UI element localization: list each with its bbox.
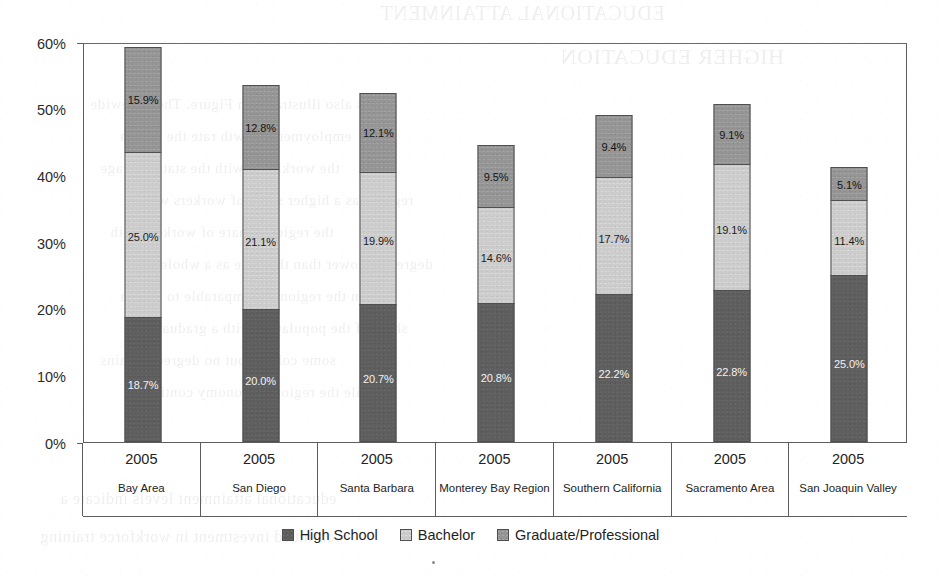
legend-swatch-bachelor-icon: [400, 529, 412, 541]
x-axis-cell-bay-area: 2005 Bay Area: [83, 443, 201, 516]
bar-segment-graduate-professional[interactable]: 12.8%: [242, 85, 279, 170]
bar-segment-high-school[interactable]: 22.8%: [713, 290, 750, 442]
x-axis-region-label: Santa Barbara: [338, 481, 416, 495]
x-axis-year-label: 2005: [361, 452, 393, 467]
bar-segment-value-label: 9.5%: [484, 172, 509, 183]
bar-stack[interactable]: 12.1% 19.9% 20.7%: [360, 94, 397, 442]
x-axis-cell-monterey-bay-region: 2005 Monterey Bay Region: [436, 443, 554, 516]
bar-segment-value-label: 22.2%: [599, 369, 630, 380]
chart-legend: High School Bachelor Graduate/Profession…: [0, 528, 941, 543]
bar-segment-high-school[interactable]: 20.0%: [242, 309, 279, 442]
bar-group-sacramento-area[interactable]: 9.1% 19.1% 22.8%: [673, 42, 791, 442]
bar-segment-bachelor[interactable]: 19.9%: [360, 172, 397, 305]
bar-segment-graduate-professional[interactable]: 5.1%: [831, 167, 868, 201]
x-axis-cell-sacramento-area: 2005 Sacramento Area: [672, 443, 790, 516]
bar-group-bay-area[interactable]: 15.9% 25.0% 18.7%: [84, 42, 202, 442]
bar-segment-graduate-professional[interactable]: 9.4%: [595, 115, 632, 178]
bar-segment-high-school[interactable]: 18.7%: [125, 317, 162, 442]
bar-stack[interactable]: 12.8% 21.1% 20.0%: [242, 86, 279, 442]
bar-segment-value-label: 12.1%: [363, 128, 394, 139]
bar-segment-value-label: 11.4%: [834, 236, 864, 247]
bar-segment-high-school[interactable]: 25.0%: [831, 275, 868, 442]
bar-segment-value-label: 14.6%: [481, 253, 512, 264]
y-axis-tick-label: 60%: [37, 37, 66, 52]
x-axis-cell-san-joaquin-valley: 2005 San Joaquin Valley: [789, 443, 907, 516]
bar-segment-bachelor[interactable]: 19.1%: [713, 164, 750, 291]
bar-segment-value-label: 20.7%: [363, 374, 394, 385]
x-axis-year-label: 2005: [125, 452, 157, 467]
bar-segment-high-school[interactable]: 20.8%: [478, 303, 515, 442]
bar-segment-graduate-professional[interactable]: 9.5%: [478, 145, 515, 208]
x-axis-cell-san-diego: 2005 San Diego: [201, 443, 319, 516]
scan-artifact-speck: [432, 561, 435, 564]
x-axis-region-label: Monterey Bay Region: [437, 481, 552, 495]
bar-segment-high-school[interactable]: 20.7%: [360, 304, 397, 442]
x-axis-year-label: 2005: [478, 452, 510, 467]
bar-segment-value-label: 21.1%: [245, 237, 276, 248]
legend-item-bachelor[interactable]: Bachelor: [400, 528, 475, 543]
y-axis-tick-label: 0%: [45, 437, 66, 452]
bar-segment-value-label: 5.1%: [837, 180, 862, 191]
bar-segment-bachelor[interactable]: 17.7%: [595, 177, 632, 295]
bar-stack[interactable]: 15.9% 25.0% 18.7%: [125, 48, 162, 442]
y-axis-tick-label: 10%: [37, 370, 66, 385]
y-axis-tick-label: 40%: [37, 170, 66, 185]
bar-stack[interactable]: 5.1% 11.4% 25.0%: [831, 168, 868, 442]
x-axis-year-label: 2005: [596, 452, 628, 467]
x-axis-region-label: Bay Area: [116, 481, 167, 495]
stacked-bar-chart: 60% 50% 40% 30% 20% 10% 0% 15.9% 25.0% 1…: [0, 0, 941, 577]
bar-segment-bachelor[interactable]: 21.1%: [242, 169, 279, 310]
bar-segment-bachelor[interactable]: 14.6%: [478, 207, 515, 304]
bar-segment-value-label: 19.9%: [363, 236, 394, 247]
bar-segment-high-school[interactable]: 22.2%: [595, 294, 632, 442]
legend-swatch-high-school-icon: [282, 529, 294, 541]
bar-segment-graduate-professional[interactable]: 9.1%: [713, 104, 750, 165]
bar-segment-value-label: 25.0%: [128, 232, 159, 243]
bar-segment-value-label: 12.8%: [245, 123, 276, 134]
bar-group-southern-california[interactable]: 9.4% 17.7% 22.2%: [555, 42, 673, 442]
x-axis-year-label: 2005: [243, 452, 275, 467]
bar-segment-graduate-professional[interactable]: 12.1%: [360, 93, 397, 174]
bar-stack[interactable]: 9.4% 17.7% 22.2%: [595, 116, 632, 442]
bar-segment-value-label: 25.0%: [834, 359, 865, 370]
plot-area: 15.9% 25.0% 18.7% 12.8% 21.1%: [83, 43, 907, 443]
legend-item-graduate-professional[interactable]: Graduate/Professional: [497, 528, 659, 543]
bar-segment-value-label: 9.4%: [602, 142, 627, 153]
bar-segment-value-label: 20.0%: [245, 376, 276, 387]
x-axis-category-labels: 2005 Bay Area 2005 San Diego 2005 Santa …: [83, 443, 907, 517]
bar-stack[interactable]: 9.5% 14.6% 20.8%: [478, 146, 515, 442]
x-axis-region-label: San Joaquin Valley: [797, 481, 899, 495]
x-axis-cell-southern-california: 2005 Southern California: [554, 443, 672, 516]
x-axis-region-label: San Diego: [230, 481, 288, 495]
bar-segment-value-label: 20.8%: [481, 373, 512, 384]
bar-segment-bachelor[interactable]: 11.4%: [831, 200, 868, 276]
bar-group-san-diego[interactable]: 12.8% 21.1% 20.0%: [202, 42, 320, 442]
bar-segment-value-label: 22.8%: [716, 367, 747, 378]
bar-segment-bachelor[interactable]: 25.0%: [125, 152, 162, 319]
bar-segment-value-label: 17.7%: [599, 234, 630, 245]
bar-segment-value-label: 9.1%: [719, 130, 744, 141]
x-axis-cell-santa-barbara: 2005 Santa Barbara: [318, 443, 436, 516]
legend-swatch-graduate-icon: [497, 529, 509, 541]
x-axis-year-label: 2005: [832, 452, 864, 467]
bar-segment-value-label: 15.9%: [128, 95, 159, 106]
x-axis-region-label: Southern California: [561, 481, 663, 495]
bar-segment-graduate-professional[interactable]: 15.9%: [125, 47, 162, 153]
legend-item-high-school[interactable]: High School: [282, 528, 378, 543]
bar-segment-value-label: 19.1%: [716, 225, 747, 236]
legend-label: High School: [300, 528, 378, 543]
x-axis-region-label: Sacramento Area: [683, 481, 776, 495]
y-axis-tick-label: 50%: [37, 103, 66, 118]
y-axis: 60% 50% 40% 30% 20% 10% 0%: [0, 30, 80, 460]
y-axis-tick-label: 30%: [37, 237, 66, 252]
bar-group-santa-barbara[interactable]: 12.1% 19.9% 20.7%: [319, 42, 437, 442]
y-axis-tick-label: 20%: [37, 303, 66, 318]
bar-stack[interactable]: 9.1% 19.1% 22.8%: [713, 105, 750, 442]
legend-label: Bachelor: [418, 528, 475, 543]
bar-group-san-joaquin-valley[interactable]: 5.1% 11.4% 25.0%: [790, 42, 908, 442]
bar-group-monterey-bay-region[interactable]: 9.5% 14.6% 20.8%: [437, 42, 555, 442]
legend-label: Graduate/Professional: [515, 528, 659, 543]
x-axis-year-label: 2005: [714, 452, 746, 467]
bar-segment-value-label: 18.7%: [128, 380, 159, 391]
